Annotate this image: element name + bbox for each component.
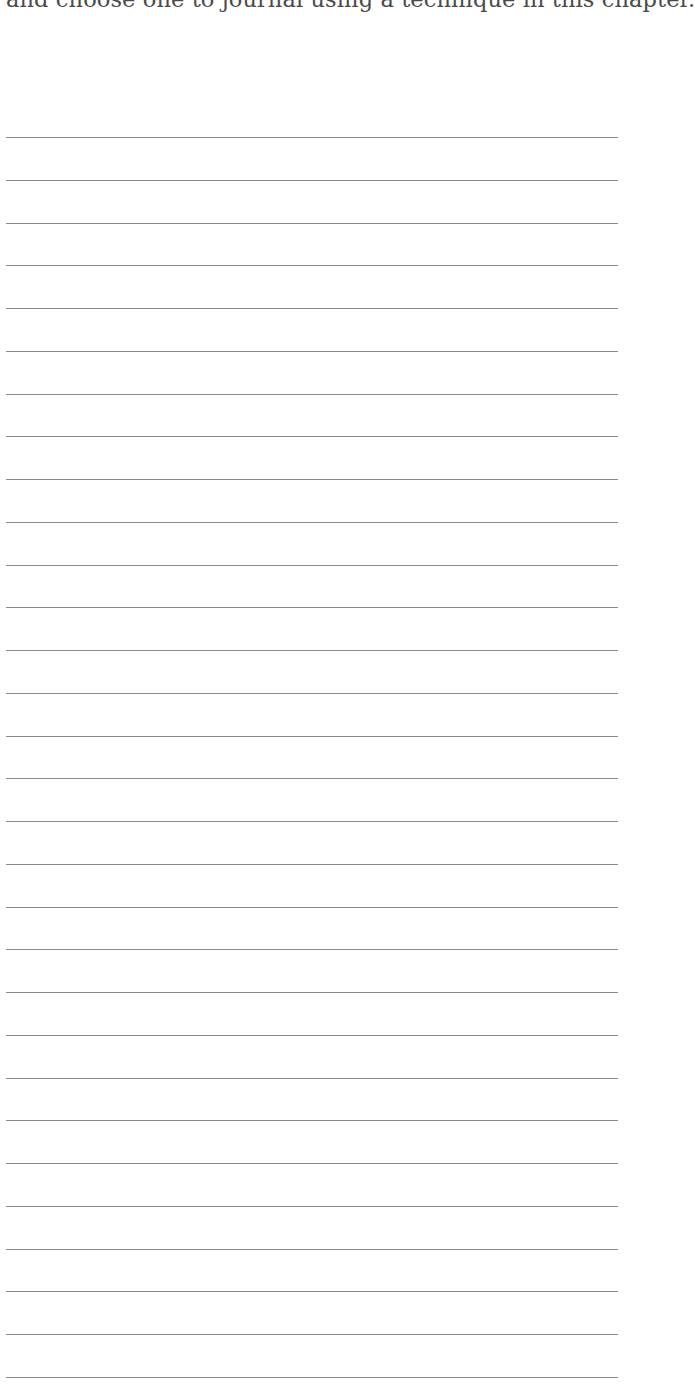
writing-line [6,308,618,309]
writing-line [6,479,618,480]
writing-line [6,522,618,523]
writing-line [6,650,618,651]
writing-line [6,394,618,395]
writing-lines-area[interactable] [6,0,618,1384]
writing-line [6,736,618,737]
writing-line [6,821,618,822]
writing-line [6,1035,618,1036]
writing-line [6,1334,618,1335]
writing-line [6,1078,618,1079]
writing-line [6,351,618,352]
writing-line [6,137,618,138]
writing-line [6,180,618,181]
writing-line [6,436,618,437]
writing-line [6,1377,618,1378]
writing-line [6,607,618,608]
writing-line [6,949,618,950]
writing-line [6,1206,618,1207]
writing-line [6,1163,618,1164]
writing-line [6,565,618,566]
writing-line [6,992,618,993]
writing-line [6,693,618,694]
writing-line [6,1249,618,1250]
writing-line [6,1291,618,1292]
writing-line [6,265,618,266]
writing-line [6,223,618,224]
writing-line [6,778,618,779]
writing-line [6,1120,618,1121]
writing-line [6,864,618,865]
writing-line [6,907,618,908]
